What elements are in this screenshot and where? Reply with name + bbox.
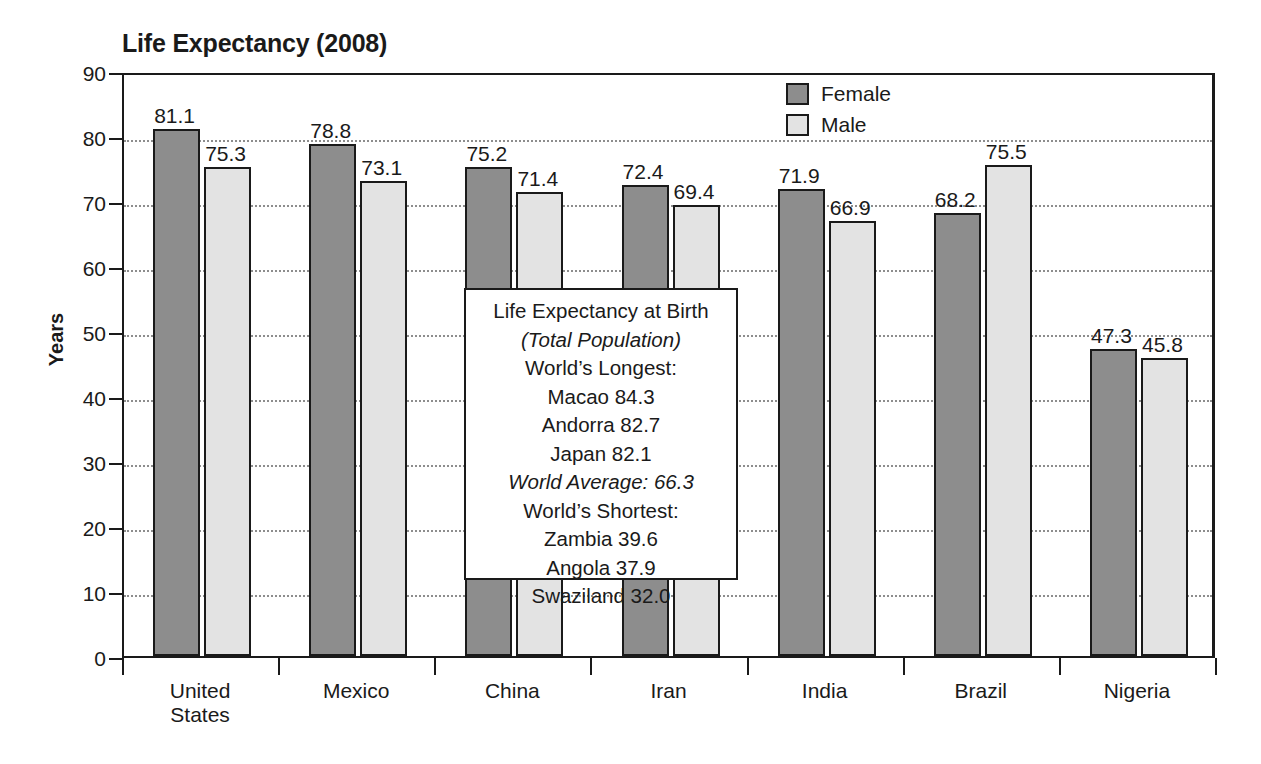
bar-female-nigeria: [1090, 349, 1137, 656]
legend-item-male: Male: [786, 109, 891, 140]
bar-value-female-china: 75.2: [452, 143, 521, 164]
legend-label-male: Male: [821, 114, 867, 135]
bar-value-female-mexico: 78.8: [296, 120, 365, 141]
life-expectancy-chart-figure: Life Expectancy (2008) Years 90807060504…: [0, 0, 1261, 764]
chart-legend: FemaleMale: [786, 78, 891, 140]
y-tick-label-90: 90: [30, 63, 106, 84]
x-tick-mark-3: [590, 658, 592, 675]
bar-value-male-iran: 69.4: [660, 181, 729, 202]
bar-value-male-mexico: 73.1: [347, 157, 416, 178]
x-category-label-mexico: Mexico: [278, 679, 434, 703]
y-tick-label-60: 60: [30, 258, 106, 279]
bar-female-india: [778, 189, 825, 656]
legend-item-female: Female: [786, 78, 891, 109]
x-category-label-iran: Iran: [590, 679, 746, 703]
legend-swatch-female: [786, 83, 809, 105]
bar-value-female-united-states: 81.1: [140, 105, 209, 126]
x-category-label-nigeria: Nigeria: [1059, 679, 1215, 703]
annotation-callout-box: Life Expectancy at Birth(Total Populatio…: [464, 288, 738, 580]
y-tick-mark-40: [109, 398, 122, 400]
y-tick-mark-20: [109, 528, 122, 530]
y-tick-label-40: 40: [30, 388, 106, 409]
y-tick-label-20: 20: [30, 518, 106, 539]
callout-line-7: World’s Shortest:: [466, 497, 736, 526]
legend-swatch-male: [786, 114, 809, 136]
y-tick-mark-70: [109, 203, 122, 205]
callout-line-2: World’s Longest:: [466, 354, 736, 383]
callout-line-10: Swaziland 32.0: [466, 582, 736, 611]
bar-male-mexico: [360, 181, 407, 656]
y-tick-label-30: 30: [30, 453, 106, 474]
bar-value-female-brazil: 68.2: [921, 189, 990, 210]
callout-line-3: Macao 84.3: [466, 383, 736, 412]
x-tick-mark-5: [903, 658, 905, 675]
x-tick-mark-7: [1215, 658, 1217, 675]
bar-value-male-india: 66.9: [816, 197, 885, 218]
y-tick-mark-0: [109, 658, 122, 660]
bar-female-united-states: [153, 129, 200, 656]
bar-value-female-india: 71.9: [765, 165, 834, 186]
y-tick-mark-90: [109, 73, 122, 75]
callout-line-9: Angola 37.9: [466, 554, 736, 583]
x-tick-mark-1: [278, 658, 280, 675]
y-tick-mark-50: [109, 333, 122, 335]
x-tick-mark-2: [434, 658, 436, 675]
bar-male-india: [829, 221, 876, 656]
bar-value-male-nigeria: 45.8: [1128, 334, 1197, 355]
bar-value-male-china: 71.4: [503, 168, 572, 189]
y-tick-mark-30: [109, 463, 122, 465]
callout-line-1: (Total Population): [466, 326, 736, 355]
y-tick-label-70: 70: [30, 193, 106, 214]
y-tick-mark-10: [109, 593, 122, 595]
x-tick-mark-6: [1059, 658, 1061, 675]
y-tick-label-0: 0: [30, 648, 106, 669]
y-tick-label-10: 10: [30, 583, 106, 604]
gridline-80: [124, 140, 1212, 142]
bar-female-brazil: [934, 213, 981, 656]
bar-value-female-iran: 72.4: [609, 161, 678, 182]
callout-line-0: Life Expectancy at Birth: [466, 297, 736, 326]
x-category-label-brazil: Brazil: [903, 679, 1059, 703]
legend-label-female: Female: [821, 83, 891, 104]
callout-line-8: Zambia 39.6: [466, 525, 736, 554]
chart-title: Life Expectancy (2008): [122, 29, 387, 58]
callout-line-4: Andorra 82.7: [466, 411, 736, 440]
bar-male-brazil: [985, 165, 1032, 656]
bar-value-male-united-states: 75.3: [191, 143, 260, 164]
callout-line-5: Japan 82.1: [466, 440, 736, 469]
callout-line-6: World Average: 66.3: [466, 468, 736, 497]
bar-male-nigeria: [1141, 358, 1188, 656]
y-tick-mark-80: [109, 138, 122, 140]
bar-female-mexico: [309, 144, 356, 656]
y-tick-label-80: 80: [30, 128, 106, 149]
x-tick-mark-4: [747, 658, 749, 675]
x-category-label-india: India: [747, 679, 903, 703]
y-tick-mark-60: [109, 268, 122, 270]
bar-value-male-brazil: 75.5: [972, 141, 1041, 162]
x-category-label-united-states: United States: [122, 679, 278, 726]
y-tick-label-50: 50: [30, 323, 106, 344]
bar-male-united-states: [204, 167, 251, 656]
x-category-label-china: China: [434, 679, 590, 703]
x-tick-mark-0: [122, 658, 124, 675]
